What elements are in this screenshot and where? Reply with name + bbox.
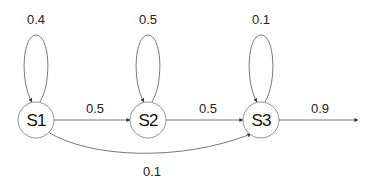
label-loop-s1: 0.4 (27, 12, 45, 27)
markov-diagram: S1 S2 S3 0.4 0.5 0.1 0.5 0.5 0.1 0.9 (0, 0, 373, 184)
node-s1-label: S1 (27, 111, 46, 130)
node-s2-label: S2 (139, 111, 158, 130)
label-s3-exit: 0.9 (311, 101, 329, 116)
self-loop-s2 (136, 35, 160, 102)
self-loop-s1 (24, 35, 48, 102)
label-s2-s3: 0.5 (199, 101, 217, 116)
label-loop-s2: 0.5 (139, 12, 157, 27)
label-s1-s2: 0.5 (86, 101, 104, 116)
label-s1-s3: 0.1 (143, 164, 161, 179)
self-loop-s3 (249, 35, 273, 102)
node-s3-label: S3 (252, 111, 271, 130)
label-loop-s3: 0.1 (252, 12, 270, 27)
